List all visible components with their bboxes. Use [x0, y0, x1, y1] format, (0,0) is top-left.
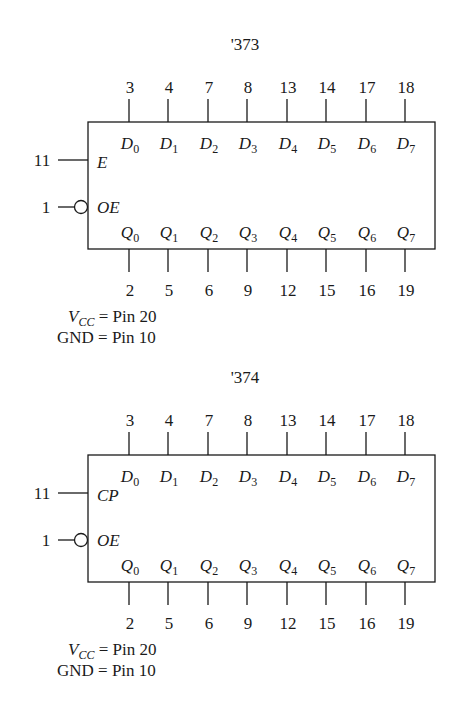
vcc-note: VCC = Pin 20	[68, 640, 156, 662]
ic-diagram-373: '3733D04D17D28D313D414D517D618D72Q05Q16Q…	[34, 35, 435, 347]
output-label: Q6	[358, 556, 376, 578]
output-label: Q5	[318, 556, 336, 578]
input-pin-number: 7	[205, 78, 214, 97]
output-label: Q7	[397, 556, 415, 578]
logic-diagrams: '3733D04D17D28D313D414D517D618D72Q05Q16Q…	[0, 0, 456, 721]
input-pin-number: 14	[319, 411, 337, 430]
input-label: D1	[159, 467, 178, 489]
input-pin-number: 17	[359, 78, 377, 97]
output-label: Q5	[318, 223, 336, 245]
chip-body	[88, 122, 435, 249]
output-label: Q3	[239, 556, 257, 578]
input-pin-number: 4	[165, 411, 174, 430]
input-pin-number: 14	[319, 78, 337, 97]
input-label: D3	[238, 467, 257, 489]
input-pin-number: 7	[205, 411, 214, 430]
input-pin-number: 13	[280, 411, 297, 430]
input-label: D5	[317, 134, 336, 156]
oe-pin-number: 1	[42, 531, 51, 550]
chip-title: '374	[231, 368, 260, 387]
input-pin-number: 4	[165, 78, 174, 97]
output-label: Q4	[279, 223, 297, 245]
output-pin-number: 15	[319, 281, 336, 300]
oe-pin-number: 1	[42, 198, 51, 217]
output-pin-number: 2	[126, 281, 135, 300]
control-pin-number: 11	[34, 484, 50, 503]
output-pin-number: 16	[359, 281, 376, 300]
output-label: Q3	[239, 223, 257, 245]
input-pin-number: 18	[398, 78, 415, 97]
chip-title: '373	[231, 35, 260, 54]
vcc-note: VCC = Pin 20	[68, 307, 156, 329]
output-pin-number: 9	[244, 281, 253, 300]
output-label: Q0	[121, 223, 139, 245]
control-label: CP	[97, 486, 119, 505]
output-pin-number: 16	[359, 614, 376, 633]
input-label: D6	[357, 467, 376, 489]
input-label: D3	[238, 134, 257, 156]
oe-label: OE	[97, 531, 120, 550]
input-pin-number: 3	[126, 78, 135, 97]
output-label: Q2	[200, 556, 218, 578]
output-pin-number: 6	[205, 614, 214, 633]
chip-body	[88, 455, 435, 582]
oe-label: OE	[97, 198, 120, 217]
output-label: Q4	[279, 556, 297, 578]
output-label: Q1	[160, 223, 178, 245]
output-label: Q2	[200, 223, 218, 245]
output-label: Q7	[397, 223, 415, 245]
input-label: D0	[120, 134, 139, 156]
input-label: D7	[396, 467, 415, 489]
gnd-note: GND = Pin 10	[57, 328, 156, 347]
input-label: D0	[120, 467, 139, 489]
output-pin-number: 9	[244, 614, 253, 633]
control-label: E	[96, 153, 108, 172]
output-pin-number: 5	[165, 614, 174, 633]
output-pin-number: 12	[280, 281, 297, 300]
output-pin-number: 5	[165, 281, 174, 300]
input-pin-number: 3	[126, 411, 135, 430]
output-pin-number: 6	[205, 281, 214, 300]
input-label: D2	[199, 467, 218, 489]
input-label: D4	[278, 467, 297, 489]
input-label: D2	[199, 134, 218, 156]
output-pin-number: 2	[126, 614, 135, 633]
inversion-bubble-icon	[75, 201, 88, 214]
input-pin-number: 17	[359, 411, 377, 430]
input-pin-number: 13	[280, 78, 297, 97]
input-label: D4	[278, 134, 297, 156]
gnd-note: GND = Pin 10	[57, 661, 156, 680]
output-pin-number: 19	[398, 614, 415, 633]
ic-diagram-374: '3743D04D17D28D313D414D517D618D72Q05Q16Q…	[34, 368, 435, 680]
input-pin-number: 18	[398, 411, 415, 430]
input-pin-number: 8	[244, 411, 253, 430]
input-pin-number: 8	[244, 78, 253, 97]
inversion-bubble-icon	[75, 534, 88, 547]
output-pin-number: 12	[280, 614, 297, 633]
control-pin-number: 11	[34, 151, 50, 170]
input-label: D7	[396, 134, 415, 156]
input-label: D6	[357, 134, 376, 156]
input-label: D1	[159, 134, 178, 156]
input-label: D5	[317, 467, 336, 489]
output-label: Q0	[121, 556, 139, 578]
output-pin-number: 19	[398, 281, 415, 300]
output-label: Q6	[358, 223, 376, 245]
output-label: Q1	[160, 556, 178, 578]
output-pin-number: 15	[319, 614, 336, 633]
